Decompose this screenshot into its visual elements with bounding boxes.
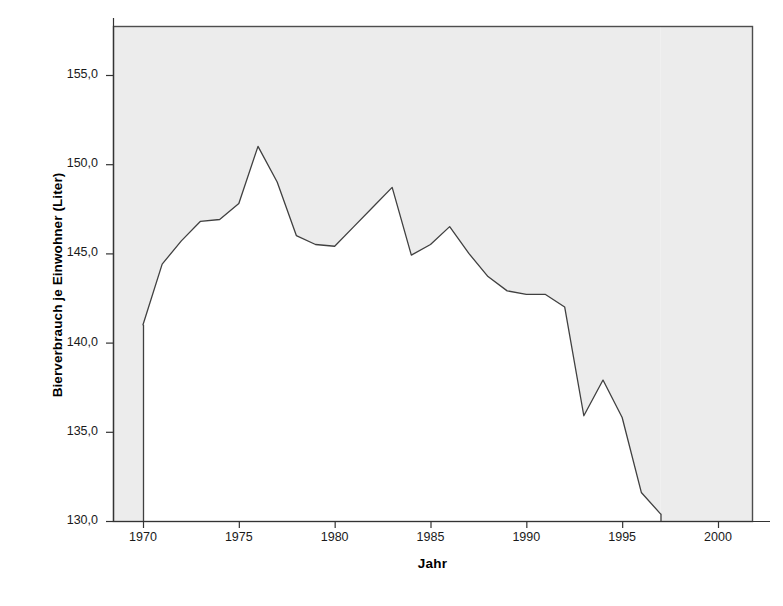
chart-figure: Bierverbrauch je Einwohner (Liter) 130,0…	[0, 0, 783, 606]
plot-area	[0, 0, 783, 606]
plot-shaded-background	[113, 26, 752, 521]
